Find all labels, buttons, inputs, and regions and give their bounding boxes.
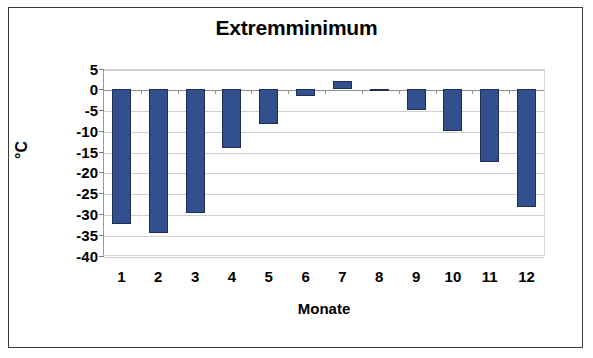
x-axis-tick-label: 3	[177, 268, 214, 285]
y-axis-tick-label: -10	[42, 123, 98, 138]
x-axis-tick-label: 7	[324, 268, 361, 285]
y-axis-tick-label: 0	[42, 82, 98, 97]
y-axis-tick-mark	[99, 235, 104, 236]
bar	[149, 89, 168, 232]
bar	[370, 89, 389, 91]
y-axis-tick-label: -40	[42, 248, 98, 263]
gridline	[104, 257, 544, 258]
bar	[333, 81, 352, 89]
bar	[480, 89, 499, 162]
x-axis-tick-label: 2	[140, 268, 177, 285]
x-axis-tick-labels: 123456789101112	[103, 268, 545, 290]
x-axis-tick-label: 4	[214, 268, 251, 285]
y-axis-tick-label: -25	[42, 186, 98, 201]
x-axis-tick-label: 10	[435, 268, 472, 285]
y-axis-tick-label: -35	[42, 227, 98, 242]
y-axis-tick-label: -20	[42, 165, 98, 180]
y-axis-title: °C	[13, 141, 31, 159]
bar	[112, 89, 131, 224]
y-axis-tick-mark	[99, 172, 104, 173]
x-axis-tick-label: 1	[103, 268, 140, 285]
y-axis-tick-mark	[99, 89, 104, 90]
x-axis-tick-label: 12	[508, 268, 545, 285]
bar	[296, 89, 315, 96]
x-axis-tick-label: 8	[361, 268, 398, 285]
bar	[407, 89, 426, 110]
bar	[222, 89, 241, 148]
y-axis-tick-labels: 50-5-10-15-20-25-30-35-40	[38, 0, 98, 358]
y-axis-tick-mark	[99, 110, 104, 111]
y-axis-tick-label: -5	[42, 103, 98, 118]
bar	[517, 89, 536, 207]
bar	[443, 89, 462, 131]
x-axis-tick-label: 9	[398, 268, 435, 285]
x-axis-tick-label: 6	[287, 268, 324, 285]
bar	[259, 89, 278, 123]
chart-screenshot: Extremminimum 50-5-10-15-20-25-30-35-40 …	[0, 0, 593, 358]
y-axis-tick-label: 5	[42, 61, 98, 76]
y-axis-tick-mark	[99, 69, 104, 70]
y-axis-tick-mark	[99, 152, 104, 153]
y-axis-tick-mark	[99, 214, 104, 215]
y-axis-tick-mark	[99, 193, 104, 194]
y-axis-tick-label: -30	[42, 206, 98, 221]
bar	[186, 89, 205, 213]
x-axis-tick-label: 11	[471, 268, 508, 285]
y-axis-tick-label: -15	[42, 144, 98, 159]
bar-series	[103, 69, 545, 256]
x-axis-tick-label: 5	[250, 268, 287, 285]
x-axis-title: Monate	[103, 300, 545, 317]
y-axis-tick-mark	[99, 131, 104, 132]
y-axis-tick-mark	[99, 256, 104, 257]
